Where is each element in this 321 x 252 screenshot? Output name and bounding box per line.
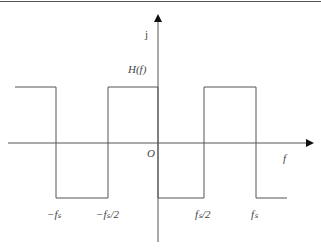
x-axis-label: f xyxy=(283,152,286,164)
tick-neg-fs-half: −fₛ/2 xyxy=(96,208,119,221)
origin-label: O xyxy=(147,147,155,159)
function-label: H(f) xyxy=(128,63,146,75)
tick-neg-fs: −fₛ xyxy=(47,208,61,221)
tick-pos-fs: fₛ xyxy=(251,208,258,221)
tick-pos-fs-half: fₛ/2 xyxy=(195,208,211,221)
y-axis-label: j xyxy=(145,28,148,40)
